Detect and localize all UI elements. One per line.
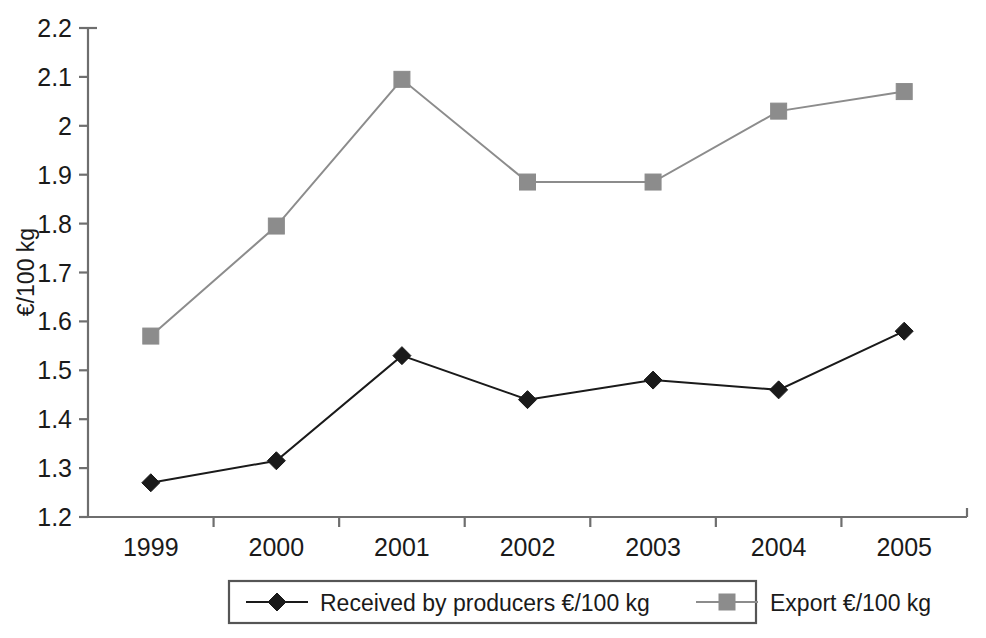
data-point-marker: [771, 103, 787, 119]
data-point-marker: [644, 371, 662, 389]
x-axis-tick-labels: 1999200020012002200320042005: [123, 533, 932, 561]
series-line: [151, 79, 904, 336]
data-point-marker: [268, 218, 284, 234]
y-tick-label: 1.9: [37, 161, 72, 189]
y-tick-label: 1.8: [37, 210, 72, 238]
data-point-marker: [143, 328, 159, 344]
x-tick-label: 2003: [625, 533, 681, 561]
line-chart: 1.21.31.41.51.61.71.81.922.12.2 19992000…: [0, 0, 986, 638]
legend-items: Received by producers €/100 kgExport €/1…: [246, 590, 931, 616]
y-tick-label: 1.4: [37, 405, 72, 433]
data-point-marker: [394, 71, 410, 87]
data-point-marker: [520, 174, 536, 190]
y-tick-label: 1.6: [37, 307, 72, 335]
x-tick-label: 1999: [123, 533, 179, 561]
data-point-marker: [519, 391, 537, 409]
series-1: [142, 322, 913, 492]
y-tick-label: 1.2: [37, 503, 72, 531]
data-point-marker: [896, 84, 912, 100]
y-tick-label: 2: [58, 112, 72, 140]
x-tick-label: 2001: [374, 533, 430, 561]
x-tick-label: 2002: [500, 533, 556, 561]
chart-canvas: 1.21.31.41.51.61.71.81.922.12.2 19992000…: [0, 0, 986, 638]
data-point-marker: [645, 174, 661, 190]
y-tick-label: 1.5: [37, 356, 72, 384]
data-point-marker: [770, 381, 788, 399]
series-2: [143, 71, 912, 344]
y-axis-tick-labels: 1.21.31.41.51.61.71.81.922.12.2: [37, 14, 72, 531]
x-axis-ticks: [214, 517, 842, 527]
series-layer: [142, 71, 913, 491]
data-point-marker: [895, 322, 913, 340]
x-tick-label: 2000: [249, 533, 305, 561]
y-tick-label: 2.1: [37, 63, 72, 91]
y-tick-label: 1.3: [37, 454, 72, 482]
x-tick-label: 2005: [876, 533, 932, 561]
data-point-marker: [142, 474, 160, 492]
legend-label: Export €/100 kg: [770, 590, 931, 616]
square-marker-icon: [719, 594, 735, 610]
x-tick-label: 2004: [751, 533, 807, 561]
y-axis-ticks: [79, 28, 88, 517]
y-axis-title: €/100 kg: [13, 228, 39, 316]
y-tick-label: 1.7: [37, 259, 72, 287]
y-tick-label: 2.2: [37, 14, 72, 42]
legend-label: Received by producers €/100 kg: [320, 590, 650, 616]
chart-legend: Received by producers €/100 kgExport €/1…: [229, 581, 931, 623]
